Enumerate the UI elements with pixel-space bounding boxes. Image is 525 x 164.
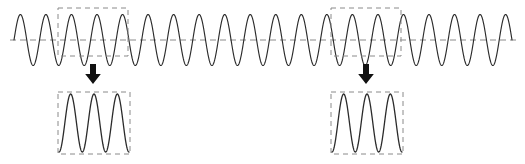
magnified-view-left-trace bbox=[59, 94, 129, 152]
selection-box-right[interactable] bbox=[331, 8, 401, 56]
waveform-canvas bbox=[0, 0, 525, 164]
waveform-figure bbox=[0, 0, 525, 164]
magnify-arrow-right-icon bbox=[358, 64, 374, 84]
magnified-view-right-frame[interactable] bbox=[331, 92, 403, 154]
magnified-view-left-frame[interactable] bbox=[58, 92, 130, 154]
magnify-arrow-left-icon bbox=[85, 64, 101, 84]
magnified-view-right-trace bbox=[332, 94, 402, 152]
